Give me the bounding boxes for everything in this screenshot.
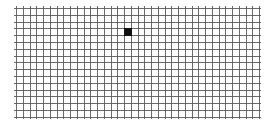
filled-grid-cell[interactable] — [124, 28, 132, 36]
grid-canvas[interactable] — [0, 0, 273, 125]
grid-filled-cells — [124, 28, 132, 36]
grid-lines — [14, 6, 261, 119]
